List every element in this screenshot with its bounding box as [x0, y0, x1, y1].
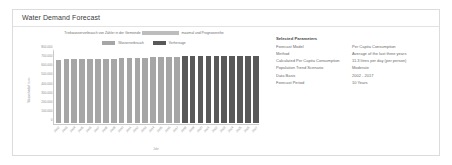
x-axis-tick: 2015: [157, 125, 163, 147]
bar: [87, 59, 93, 123]
chart-title-prefix: Trinkwasserverbrauch von Zähler in der G…: [64, 31, 140, 35]
y-axis-tick-label: 200.000: [31, 100, 53, 104]
forecast-chart: Trinkwasserverbrauch von Zähler in der G…: [18, 29, 270, 154]
x-axis-tick: 2016: [165, 125, 171, 147]
x-axis-tick-label: 2004: [69, 125, 77, 133]
bar: [56, 60, 62, 123]
bar: [119, 58, 125, 123]
bar: [174, 57, 180, 123]
x-axis-tick: 2019: [189, 125, 195, 147]
y-axis-tick-mark: [53, 96, 54, 97]
x-axis-tick: 2005: [78, 125, 84, 147]
water-demand-forecast-card: Water Demand Forecast Trinkwasserverbrau…: [12, 9, 440, 156]
y-axis-tick-label: 100.000: [31, 109, 53, 113]
y-axis-tick-label: 800.000: [31, 45, 53, 49]
bar: [229, 56, 235, 123]
x-axis-tick: 2012: [134, 125, 140, 147]
x-axis-tick: 2022: [213, 125, 219, 147]
y-axis-tick-mark: [53, 50, 54, 51]
parameter-label: Calculated Per Capita Consumption: [276, 58, 352, 63]
y-axis-tick-mark: [53, 68, 54, 69]
x-axis-tick: 2021: [205, 125, 211, 147]
card-header: Water Demand Forecast: [13, 10, 439, 27]
x-axis-tick-label: 2017: [172, 125, 180, 133]
x-axis-tick: 2003: [63, 125, 69, 147]
chart-title: Trinkwasserverbrauch von Zähler in der G…: [18, 31, 270, 35]
x-axis-tick-label: 2027: [251, 125, 259, 133]
x-axis-tick-label: 2024: [227, 125, 235, 133]
bar: [245, 56, 251, 123]
selected-parameters-panel: Selected Parameters Forecast ModelPer Ca…: [276, 36, 436, 87]
parameter-value: 10 Years: [352, 80, 368, 85]
x-axis-tick-label: 2014: [148, 125, 156, 133]
x-axis-tick-label: 2012: [132, 125, 140, 133]
y-axis-tick-mark: [53, 123, 54, 124]
bar: [253, 56, 259, 123]
bar: [71, 59, 77, 124]
x-axis-tick-label: 2002: [53, 125, 61, 133]
x-axis-tick-label: 2011: [124, 126, 131, 134]
x-axis-title: Jahr: [53, 147, 259, 151]
y-axis-tick-mark: [53, 77, 54, 78]
x-axis-tick: 2013: [141, 125, 147, 147]
bar: [79, 59, 85, 123]
chart-title-suffix: maximal und Prognosereihe: [181, 31, 223, 35]
parameter-row: Calculated Per Capita Consumption11.3 li…: [276, 58, 436, 63]
bar: [150, 57, 156, 123]
x-axis-tick: 2008: [102, 125, 108, 147]
x-axis-tick-label: 2019: [187, 125, 195, 133]
bar: [135, 58, 141, 123]
parameter-row: Forecast Period10 Years: [276, 80, 436, 85]
x-axis-tick-label: 2025: [235, 125, 243, 133]
x-axis-tick-label: 2018: [180, 125, 188, 133]
bar: [214, 56, 220, 123]
x-axis-tick: 2026: [244, 125, 250, 147]
bar: [103, 59, 109, 124]
x-axis-tick-label: 2026: [243, 125, 251, 133]
legend-swatch-forecast: [153, 41, 166, 45]
parameter-value: Per Capita Consumption: [352, 44, 396, 49]
parameters-list: Forecast ModelPer Capita ConsumptionMeth…: [276, 44, 436, 84]
parameter-row: MethodAverage of the last three years: [276, 51, 436, 56]
bar: [158, 57, 164, 123]
x-axis-tick-label: 2022: [211, 125, 219, 133]
legend-swatch-historical: [102, 41, 115, 45]
y-axis-tick-label: 300.000: [31, 91, 53, 95]
bar: [166, 57, 172, 123]
y-axis-tick-mark: [53, 114, 54, 115]
bar: [111, 59, 117, 124]
bar: [221, 56, 227, 123]
y-axis-tick-label: 600.000: [31, 63, 53, 67]
x-axis-tick-label: 2020: [195, 125, 203, 133]
x-axis-tick-labels: 2002200320042005200620072008200920102011…: [54, 125, 259, 147]
parameter-row: Population Trend ScenarioModerate: [276, 65, 436, 70]
screenshot-root: Water Demand Forecast Trinkwasserverbrau…: [0, 0, 452, 165]
x-axis-tick-label: 2023: [219, 125, 227, 133]
chart-legend: Wasserverbrauch Vorhersage: [18, 41, 270, 45]
x-axis-tick-label: 2015: [156, 125, 164, 133]
x-axis-tick: 2027: [252, 125, 258, 147]
bar: [142, 58, 148, 124]
x-axis-tick-label: 2005: [77, 125, 85, 133]
parameter-value: 2002 - 2017: [352, 73, 373, 78]
plot-area: 0100.000200.000300.000400.000500.000600.…: [53, 51, 259, 125]
bar-series: [55, 50, 260, 123]
x-axis-tick-label: 2003: [61, 125, 69, 133]
x-axis-tick-label: 2007: [93, 125, 101, 133]
y-axis-tick-label: 400.000: [31, 82, 53, 86]
legend-item-historical: Wasserverbrauch: [102, 41, 144, 45]
bar: [182, 56, 188, 123]
x-axis-tick: 2010: [118, 125, 124, 147]
y-axis-tick-mark: [53, 87, 54, 88]
bar: [64, 59, 70, 123]
x-axis-tick: 2011: [126, 125, 132, 147]
parameter-label: Data Basis: [276, 73, 352, 78]
y-axis-tick-mark: [53, 59, 54, 60]
x-axis-tick: 2004: [70, 125, 76, 147]
parameter-value: 11.3 litres per day (per person): [352, 58, 406, 63]
x-axis-tick: 2002: [55, 125, 61, 147]
parameter-row: Forecast ModelPer Capita Consumption: [276, 44, 436, 49]
bar: [127, 58, 133, 123]
parameter-label: Forecast Period: [276, 80, 352, 85]
redacted-municipality-name: [142, 31, 179, 35]
